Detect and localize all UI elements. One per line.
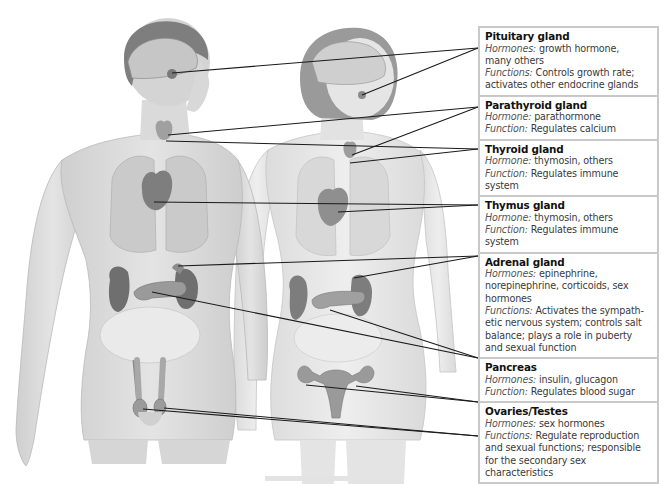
gland-line: Function: Regulates blood sugar	[485, 386, 653, 398]
gland-title: Adrenal gland	[485, 256, 653, 269]
gland-line: norepinephrine, corticoids, sex	[485, 280, 653, 292]
gland-box-thymus: Thymus gland Hormone: thymosin, others F…	[480, 197, 657, 253]
gland-line: many others	[485, 55, 653, 67]
gland-line: Hormone: parathormone	[485, 111, 653, 123]
gland-title: Thyroid gland	[485, 143, 653, 156]
gland-title: Thymus gland	[485, 199, 653, 212]
gland-title: Pituitary gland	[485, 30, 653, 43]
gland-line: and sexual functions; responsible	[485, 442, 653, 454]
gland-title: Parathyroid gland	[485, 99, 653, 112]
gland-line: balance; plays a role in puberty	[485, 330, 653, 342]
gland-line: Function: Regulates immune system	[485, 224, 653, 249]
gland-line: Hormones: epinephrine,	[485, 268, 653, 280]
gland-box-parathyroid: Parathyroid gland Hormone: parathormone …	[480, 97, 657, 141]
gland-title: Pancreas	[485, 361, 653, 374]
caption-placeholder	[265, 476, 350, 481]
gland-line: for the secondary sex characteristics	[485, 455, 653, 480]
gland-line: Function: Regulates immune system	[485, 168, 653, 193]
gland-line: Functions: Activates the sympath-	[485, 305, 653, 317]
gland-box-pancreas: Pancreas Hormones: insulin, glucagon Fun…	[480, 359, 657, 403]
gland-line: hormones	[485, 293, 653, 305]
gland-info-panel: Pituitary gland Hormones: growth hormone…	[478, 26, 659, 484]
gland-title: Ovaries/Testes	[485, 405, 653, 418]
gland-box-adrenal: Adrenal gland Hormones: epinephrine, nor…	[480, 254, 657, 360]
gland-line: Hormone: thymosin, others	[485, 212, 653, 224]
gland-line: Function: Regulates calcium	[485, 123, 653, 135]
gland-line: Functions: Controls growth rate;	[485, 67, 653, 79]
female-figure	[234, 28, 456, 484]
gland-line: and sexual function	[485, 342, 653, 354]
gland-box-thyroid: Thyroid gland Hormone: thymosin, others …	[480, 141, 657, 197]
gland-line: Functions: Regulate reproduction	[485, 430, 653, 442]
gland-line: Hormone: thymosin, others	[485, 155, 653, 167]
gland-line: etic nervous system; controls salt	[485, 317, 653, 329]
male-figure	[16, 18, 268, 466]
gland-line: Hormones: growth hormone,	[485, 43, 653, 55]
gland-box-pituitary: Pituitary gland Hormones: growth hormone…	[480, 28, 657, 97]
gland-line: Hormones: sex hormones	[485, 418, 653, 430]
gland-box-ovaries-testes: Ovaries/Testes Hormones: sex hormones Fu…	[480, 403, 657, 482]
gland-line: Hormones: insulin, glucagon	[485, 374, 653, 386]
gland-line: activates other endocrine glands	[485, 79, 653, 91]
